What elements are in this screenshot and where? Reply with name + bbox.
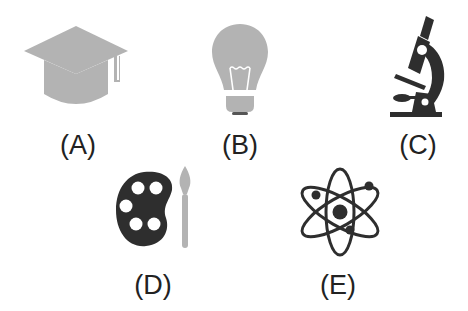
microscope-icon — [388, 14, 448, 120]
label-d: (D) — [113, 272, 193, 299]
label-c: (C) — [378, 132, 458, 159]
graduation-cap-icon — [22, 24, 132, 104]
label-e: (E) — [298, 272, 378, 299]
atom-icon — [295, 166, 385, 258]
paint-palette-brush-icon — [114, 166, 196, 254]
label-b: (B) — [200, 132, 280, 159]
light-bulb-icon — [210, 22, 270, 117]
label-a: (A) — [38, 132, 118, 159]
